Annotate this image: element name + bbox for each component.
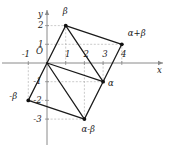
y-axis-label: y	[38, 10, 43, 19]
point-marker-alpha-minus-beta	[83, 117, 87, 121]
point-label-alpha: α	[108, 79, 114, 88]
x-tick-label-1: 1	[65, 50, 70, 59]
origin-to-alpha-minus-beta-diagonal	[47, 63, 84, 119]
beta-to-alpha-plus-beta	[66, 26, 122, 45]
point-marker-beta	[64, 24, 68, 28]
x-tick-label-4: 4	[121, 50, 126, 59]
x-tick-label--1: -1	[22, 50, 30, 59]
point-label-minus-beta: -β	[9, 92, 17, 101]
point-marker-alpha-plus-beta	[120, 42, 124, 46]
y-tick-label--2: -2	[33, 96, 41, 105]
x-axis-label: x	[157, 66, 162, 75]
x-tick-label-2: 2	[84, 50, 89, 59]
point-label-alpha-minus-beta: α-β	[81, 125, 95, 134]
x-tick-label-3: 3	[102, 50, 107, 59]
point-marker-alpha	[101, 80, 105, 84]
y-tick-label--1: -1	[33, 77, 41, 86]
point-marker-minus-beta	[26, 99, 30, 103]
y-tick-label--3: -3	[33, 115, 41, 124]
alpha-minus-beta-to-alpha	[84, 82, 103, 119]
point-label-origin: O	[36, 47, 43, 56]
point-label-alpha-plus-beta: α+β	[128, 29, 146, 38]
y-axis-arrow	[45, 10, 49, 15]
alpha-to-origin	[47, 63, 103, 82]
y-tick-label-2: 2	[38, 21, 43, 30]
point-label-beta: β	[63, 7, 68, 16]
figure-canvas: -1123421-1-2-3yxOβα+βα-βα-β	[0, 0, 170, 150]
